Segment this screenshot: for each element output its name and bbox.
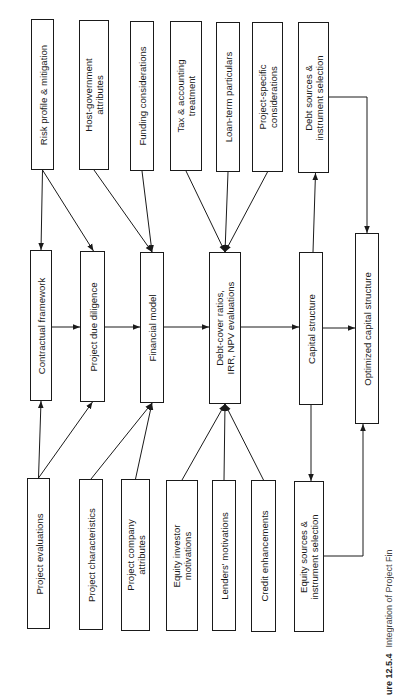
node-loan-term-particulars: Loan-term particulars bbox=[216, 22, 240, 172]
node-label: Lenders' motivations bbox=[219, 512, 230, 600]
node-label: Project evaluations bbox=[33, 513, 44, 594]
node-label: Tax & accountingtreatment bbox=[175, 59, 197, 132]
node-label: Debt-cover ratios,IRR, NPV evaluations bbox=[214, 282, 236, 375]
figure-number: ure 12.5.4 bbox=[384, 653, 394, 695]
edge-projco-to-finmodel bbox=[136, 403, 153, 479]
edge-equitysrc-to-optcap bbox=[324, 424, 363, 556]
node-credit-enhancements: Credit enhancements bbox=[251, 480, 276, 632]
edge-tax-to-debtcover bbox=[186, 171, 225, 252]
edge-projspec-to-debtcover bbox=[225, 172, 268, 252]
node-label: Risk profile & mitigation bbox=[37, 44, 48, 144]
node-funding-considerations: Funding considerations bbox=[130, 21, 154, 171]
node-label: Debt sources &instrument selection bbox=[303, 55, 325, 140]
edge-risk-to-duediligence bbox=[43, 170, 94, 251]
node-label: Credit enhancements bbox=[258, 510, 269, 601]
edge-equityinv-to-debtcover bbox=[182, 404, 225, 480]
edge-capstruct-to-debtsrc bbox=[313, 173, 316, 252]
node-label: Project companyattributes bbox=[125, 519, 147, 590]
edge-loanterm-to-debtcover bbox=[225, 172, 228, 252]
figure-title: Integration of Project Fin bbox=[384, 549, 394, 647]
node-project-characteristics: Project characteristics bbox=[79, 479, 103, 630]
edge-risk-to-contract bbox=[41, 170, 43, 250]
node-project-company-attributes: Project companyattributes bbox=[121, 479, 150, 631]
edge-lenders-to-debtcover bbox=[224, 404, 225, 480]
edge-debtsrc-to-optcap bbox=[329, 97, 367, 233]
edge-projeval-to-duediligence bbox=[39, 402, 93, 478]
node-label: Project due diligence bbox=[87, 282, 98, 371]
node-label: Project-specificconsiderations bbox=[257, 64, 279, 129]
node-tax-accounting-treatment: Tax & accountingtreatment bbox=[170, 21, 202, 171]
node-debt-cover-irr-npv-evaluations: Debt-cover ratios,IRR, NPV evaluations bbox=[209, 252, 241, 404]
node-risk-profile-mitigation: Risk profile & mitigation bbox=[31, 19, 54, 170]
node-contractual-framework: Contractual framework bbox=[30, 250, 52, 401]
node-label: Capital structure bbox=[306, 294, 317, 364]
node-equity-investor-motivations: Equity investormotivations bbox=[166, 480, 198, 631]
edge-credit-to-debtcover bbox=[225, 404, 264, 480]
node-debt-sources-instrument-selection: Debt sources &instrument selection bbox=[298, 22, 329, 173]
node-project-specific-considerations: Project-specificconsiderations bbox=[252, 22, 283, 172]
node-label: Loan-term particulars bbox=[223, 52, 234, 143]
node-label: Equity investormotivations bbox=[171, 524, 193, 587]
node-label: Funding considerations bbox=[137, 46, 148, 145]
node-host-government-attributes: Host-governmentattributes bbox=[79, 20, 109, 170]
node-label: Contractual framework bbox=[36, 277, 47, 374]
node-label: Host-governmentattributes bbox=[83, 58, 105, 132]
node-financial-model: Financial model bbox=[140, 252, 164, 403]
node-label: Project characteristics bbox=[86, 508, 97, 602]
node-label: Optimized capital structure bbox=[362, 272, 373, 386]
edge-projeval-to-contract bbox=[39, 401, 42, 478]
node-capital-structure: Capital structure bbox=[299, 252, 323, 405]
node-label: Financial model bbox=[147, 294, 158, 361]
node-lenders-motivations: Lenders' motivations bbox=[212, 480, 236, 631]
node-equity-sources-instrument-selection: Equity sources &instrument selection bbox=[294, 481, 324, 632]
node-label: Equity sources &instrument selection bbox=[298, 514, 320, 599]
node-optimized-capital-structure: Optimized capital structure bbox=[355, 233, 379, 424]
node-project-evaluations: Project evaluations bbox=[27, 478, 50, 629]
edge-projchar-to-finmodel bbox=[91, 403, 152, 479]
node-project-due-diligence: Project due diligence bbox=[80, 251, 105, 402]
figure-caption: ure 12.5.4Integration of Project Fin bbox=[384, 549, 394, 695]
